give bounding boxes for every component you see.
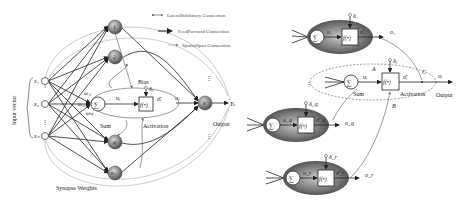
point-c: C <box>422 69 427 75</box>
neuron-r: ∑ u_r f(•) δ_r σ̄_r o_r <box>266 154 374 195</box>
input-vdots: ⋮ <box>42 119 48 125</box>
hidden-node-label: n₁ <box>111 170 116 176</box>
activation-fn: f(•) <box>319 176 327 183</box>
sum-label: Sum <box>100 123 111 129</box>
sum-symbol: ∑ <box>313 34 318 42</box>
input-node <box>42 78 49 85</box>
output-text: Output <box>436 92 453 98</box>
o-label: oⱼ <box>175 95 180 101</box>
legend-label: LateralInhibitory Connection <box>167 13 226 18</box>
output-label: oⱼ <box>438 73 443 79</box>
weight-label: ω₂ⱼ <box>78 101 86 107</box>
sum-symbol: ∑ <box>94 101 99 109</box>
legend-item-lateral-inhibitory: LateralInhibitory Connection <box>152 13 226 18</box>
legend: LateralInhibitory Connection FeedForward… <box>152 13 231 48</box>
diagram-canvas: Input vector x₁ x₂ ⋮ xₙ 1 2 q n₁ ω₁ⱼ ω₂ⱼ… <box>0 0 469 208</box>
activation-label: Activation <box>143 123 168 129</box>
hidden-node-label: 1 <box>113 24 116 30</box>
input-label: x₁ <box>33 78 39 84</box>
bias-terminal <box>145 87 148 90</box>
input-brace <box>27 78 33 138</box>
sigma-label: σ̄₁ <box>360 29 365 35</box>
neuron-j: ∑ Sum uⱼ f(•) Activation δⱼ σ̄ⱼ oⱼ Outpu… <box>310 58 453 109</box>
sum-symbol: ∑ <box>347 79 352 87</box>
u-label: u_q <box>283 117 292 123</box>
sigma-label: σ̄_r <box>336 170 345 176</box>
input-node <box>42 133 49 140</box>
sigma-label: σ̄ⱼ <box>403 74 408 80</box>
neuron-q: ∑ u_q f(•) δ_q σ̄_q o_q <box>247 101 354 142</box>
delta-label: δ₁ <box>353 13 358 19</box>
output-label: Output <box>213 121 230 127</box>
point-a: A <box>371 66 376 72</box>
input-label: xₙ <box>33 133 40 139</box>
legend-item-spatial-span: SpatialSpan Connection <box>168 43 231 48</box>
input-label: x₂ <box>33 101 39 107</box>
point-b: B <box>392 103 396 109</box>
synapse-weights-label: Synapse Weights <box>56 185 98 191</box>
vdots: ⋮ <box>206 75 212 81</box>
sum-label: Sum <box>353 91 364 97</box>
vdots: ⋮ <box>306 81 312 87</box>
u-label: uⱼ <box>116 95 121 101</box>
lateral-connection-r-to-j <box>350 92 390 178</box>
weight-label: ω₁ⱼ <box>84 90 92 96</box>
input-node <box>42 101 49 108</box>
sigma-label: σ̄_q <box>316 117 325 123</box>
vdots: ⋮ <box>206 133 212 139</box>
output-label: o_q <box>345 120 354 126</box>
weight-label: ωₙⱼ <box>86 110 94 116</box>
output-label: o₁ <box>390 29 395 35</box>
activation-fn: f(•) <box>299 123 307 130</box>
activation-label: Activation <box>400 91 425 97</box>
u-label: u_r <box>303 170 312 176</box>
bias-label: Bias <box>138 79 149 85</box>
delta-label: δ_q <box>309 101 318 107</box>
output-node-label: k <box>203 100 206 106</box>
right-network: ∑ u₁ f(•) δ₁ σ̄₁ o₁ ∑ Sum uⱼ f(•) Activa <box>247 13 453 195</box>
output-label: o_r <box>365 172 374 178</box>
sum-symbol: ∑ <box>269 122 274 130</box>
activation-fn: f(•) <box>383 79 391 86</box>
sigma-label: σ̄ⱼ <box>157 96 162 102</box>
hidden-node-label: 2 <box>113 54 116 60</box>
hidden-node-label: q <box>113 139 116 145</box>
input-vector-label: Input vector <box>11 96 17 125</box>
u-label: uⱼ <box>363 74 368 80</box>
activation-fn: f(•) <box>140 102 148 109</box>
input-nodes: x₁ x₂ ⋮ xₙ <box>33 78 49 140</box>
sum-symbol: ∑ <box>289 175 294 183</box>
activation-fn: f(•) <box>343 35 351 42</box>
legend-label: SpatialSpan Connection <box>182 43 231 48</box>
delta-label: δⱼ <box>393 58 398 64</box>
spatial-span-bottom-outer <box>45 104 230 186</box>
neuron-1: ∑ u₁ f(•) δ₁ σ̄₁ o₁ <box>292 13 395 54</box>
u-label: u₁ <box>327 29 332 35</box>
output-symbol: Yₖ <box>230 101 236 107</box>
delta-label: δ_r <box>329 154 338 160</box>
legend-label: FeedForward Connection <box>178 29 229 34</box>
